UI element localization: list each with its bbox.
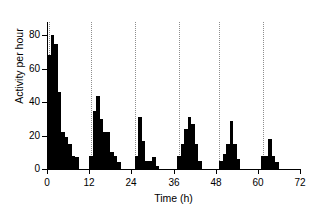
y-tick-label: 20 [0, 131, 40, 141]
x-tick-mark [300, 169, 301, 174]
x-tick-label: 0 [32, 177, 62, 188]
onset-gridline-5 [263, 22, 265, 169]
y-tick-mark [42, 69, 47, 70]
x-tick-label: 72 [285, 177, 315, 188]
plot-area [47, 22, 300, 169]
x-tick-mark [131, 169, 132, 174]
x-tick-mark [258, 169, 259, 174]
y-tick-mark [42, 102, 47, 103]
onset-gridline-4 [219, 22, 221, 169]
x-tick-mark [216, 169, 217, 174]
y-tick-label: 60 [0, 64, 40, 74]
x-tick-label: 60 [243, 177, 273, 188]
y-tick-label: 40 [0, 97, 40, 107]
bar [275, 162, 279, 169]
bar [237, 159, 241, 169]
x-tick-label: 48 [201, 177, 231, 188]
bar [198, 161, 202, 169]
y-tick-label: 80 [0, 30, 40, 40]
y-tick-label: 0 [0, 164, 40, 174]
x-tick-label: 24 [116, 177, 146, 188]
y-tick-mark [42, 35, 47, 36]
bar [75, 157, 79, 169]
y-tick-mark [42, 136, 47, 137]
x-tick-label: 36 [159, 177, 189, 188]
onset-gridline-2 [135, 22, 137, 169]
x-axis-title: Time (h) [47, 192, 300, 204]
bar [156, 166, 160, 169]
x-tick-mark [174, 169, 175, 174]
bar [117, 162, 121, 169]
x-tick-mark [89, 169, 90, 174]
actogram-bar-chart: Activity per hour 020406080 Time (h) 012… [0, 0, 320, 212]
x-tick-label: 12 [74, 177, 104, 188]
x-tick-mark [47, 169, 48, 174]
